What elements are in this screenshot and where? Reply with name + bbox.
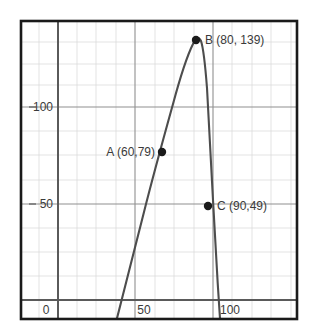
data-point-b-label: B (80, 139) xyxy=(205,33,264,47)
data-point-b xyxy=(192,36,200,44)
data-point-c xyxy=(204,202,212,210)
data-point-a xyxy=(158,148,166,156)
graph-figure: 100 50 0 50 100 A (60,79) B (80, 139) C … xyxy=(0,0,315,334)
data-point-c-label: C (90,49) xyxy=(217,199,267,213)
x-tick-label-0: 0 xyxy=(43,303,50,317)
figure-background xyxy=(0,0,315,334)
x-tick-label-100: 100 xyxy=(220,303,240,317)
graph-canvas: 100 50 0 50 100 A (60,79) B (80, 139) C … xyxy=(0,0,315,334)
x-tick-label-50: 50 xyxy=(137,303,151,317)
y-tick-label-100: 100 xyxy=(33,100,53,114)
y-tick-label-50: 50 xyxy=(40,197,54,211)
data-point-a-label: A (60,79) xyxy=(106,145,155,159)
